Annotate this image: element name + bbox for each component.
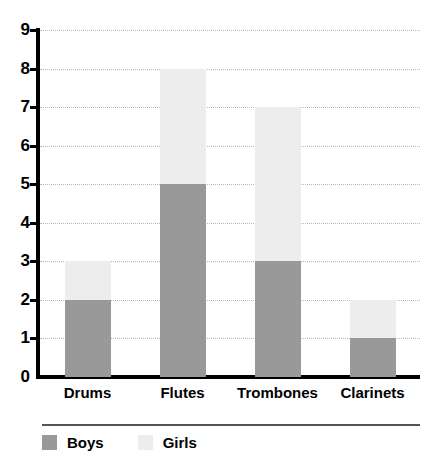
bar-segment-drums-girls[interactable]	[65, 261, 111, 300]
y-tick-label-9: 9	[6, 21, 30, 38]
y-axis-tick-labels: 0123456789	[0, 0, 30, 470]
y-tick-label-1: 1	[6, 329, 30, 346]
y-tick-mark-2	[30, 299, 38, 302]
legend-item-boys[interactable]: Boys	[42, 434, 104, 451]
legend-label-girls: Girls	[163, 434, 197, 451]
y-tick-mark-6	[30, 145, 38, 148]
y-tick-label-8: 8	[6, 60, 30, 77]
bar-segment-trombones-boys[interactable]	[255, 261, 301, 377]
y-tick-label-4: 4	[6, 214, 30, 231]
legend-separator-rule	[42, 424, 420, 426]
y-tick-mark-5	[30, 183, 38, 186]
legend-label-boys: Boys	[67, 434, 104, 451]
bar-group-trombones[interactable]	[255, 30, 301, 377]
y-tick-label-3: 3	[6, 252, 30, 269]
bar-segment-clarinets-boys[interactable]	[350, 338, 396, 377]
bar-group-flutes[interactable]	[160, 30, 206, 377]
bar-segment-trombones-girls[interactable]	[255, 107, 301, 261]
y-tick-label-5: 5	[6, 175, 30, 192]
y-tick-mark-3	[30, 260, 38, 263]
bar-segment-drums-boys[interactable]	[65, 300, 111, 377]
bar-segment-clarinets-girls[interactable]	[350, 300, 396, 339]
y-tick-mark-4	[30, 222, 38, 225]
y-tick-mark-1	[30, 337, 38, 340]
y-tick-label-7: 7	[6, 98, 30, 115]
bar-group-drums[interactable]	[65, 30, 111, 377]
bar-group-clarinets[interactable]	[350, 30, 396, 377]
y-tick-mark-9	[30, 29, 38, 32]
y-tick-mark-7	[30, 106, 38, 109]
y-tick-label-6: 6	[6, 137, 30, 154]
bar-segment-flutes-girls[interactable]	[160, 69, 206, 185]
bar-segment-flutes-boys[interactable]	[160, 184, 206, 377]
legend-swatch-boys-icon	[42, 435, 57, 450]
x-tick-label-clarinets: Clarinets	[313, 384, 433, 401]
legend-swatch-girls-icon	[138, 435, 153, 450]
y-tick-label-0: 0	[6, 368, 30, 385]
chart-legend: BoysGirls	[42, 434, 197, 451]
y-tick-label-2: 2	[6, 291, 30, 308]
legend-item-girls[interactable]: Girls	[138, 434, 197, 451]
y-tick-mark-8	[30, 68, 38, 71]
stacked-bar-chart-figure: 0123456789 DrumsFlutesTrombonesClarinets…	[0, 0, 441, 470]
plot-area	[40, 30, 420, 377]
